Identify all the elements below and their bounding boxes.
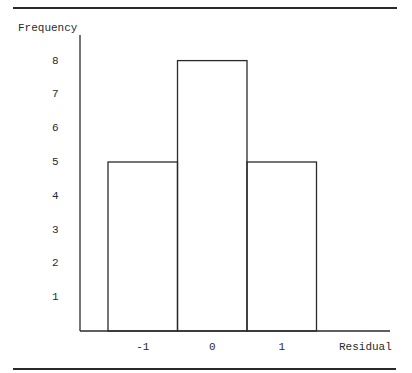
bars	[108, 61, 317, 331]
histogram-bar	[108, 162, 178, 331]
histogram-plot	[0, 0, 412, 373]
histogram-bar	[178, 61, 248, 331]
histogram-bar	[247, 162, 317, 331]
